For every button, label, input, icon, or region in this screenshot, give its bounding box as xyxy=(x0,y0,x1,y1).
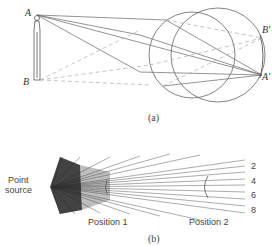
person-object-icon xyxy=(34,16,40,81)
wavefront-position-2 xyxy=(205,176,209,198)
ray-number-4: 4 xyxy=(251,176,256,186)
caption-b: (b) xyxy=(148,233,160,245)
ray-number-6: 6 xyxy=(251,190,256,200)
ray-number-8: 8 xyxy=(251,205,256,215)
source-fan xyxy=(50,157,82,214)
label-source: source xyxy=(5,185,32,195)
label-b: B xyxy=(23,76,29,87)
label-b-prime: B' xyxy=(262,24,271,35)
label-a: A xyxy=(24,7,32,18)
eye-diagram xyxy=(149,8,265,102)
caption-a: (a) xyxy=(148,112,159,124)
optics-figure: A B B' A' (a) xyxy=(0,0,272,246)
figure-b: Point source Position 1 Position 2 2 4 6… xyxy=(5,154,256,245)
figure-a: A B B' A' (a) xyxy=(23,7,271,124)
ray-number-2: 2 xyxy=(251,161,256,171)
label-a-prime: A' xyxy=(261,71,271,82)
rays-from-b xyxy=(40,20,262,86)
label-position-2: Position 2 xyxy=(189,217,229,227)
label-position-1: Position 1 xyxy=(88,217,128,227)
label-point: Point xyxy=(8,175,29,185)
